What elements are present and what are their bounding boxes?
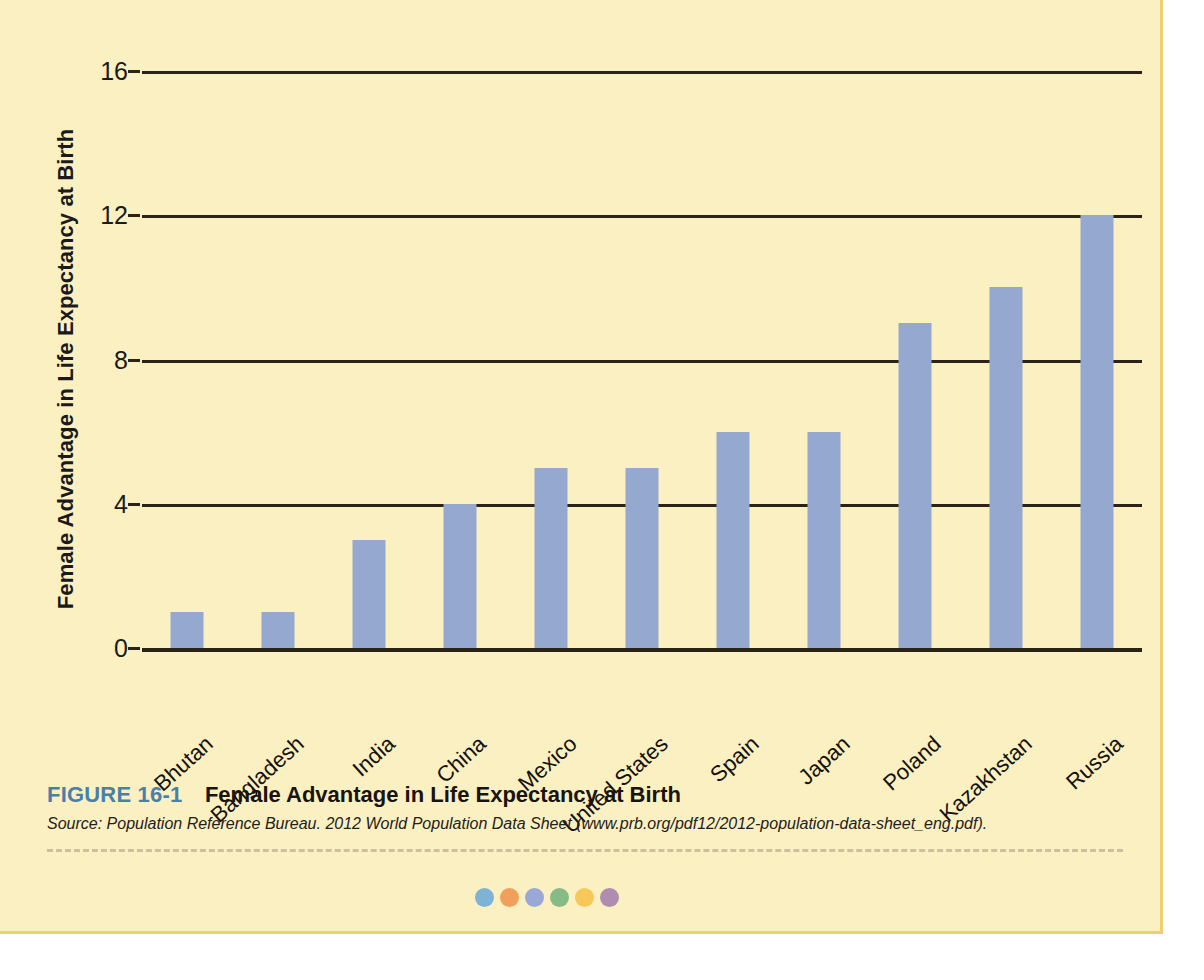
dot-yellow bbox=[575, 888, 594, 907]
gridline-12 bbox=[142, 215, 1142, 218]
y-tick-label-16: 16 bbox=[100, 57, 128, 86]
bar-japan bbox=[807, 432, 840, 648]
plot-area: 0481216BhutanBangladeshIndiaChinaMexicoU… bbox=[142, 71, 1142, 648]
x-tick-label-china: China bbox=[431, 731, 491, 789]
caption-divider bbox=[47, 849, 1123, 852]
bar-india bbox=[353, 540, 386, 648]
gridline-16 bbox=[142, 71, 1142, 74]
figure-source-note: Source: Population Reference Bureau. 201… bbox=[47, 815, 1127, 833]
y-tick-mark-16 bbox=[128, 70, 140, 73]
y-tick-mark-0 bbox=[128, 647, 140, 650]
bar-bangladesh bbox=[262, 612, 295, 648]
bar-russia bbox=[1080, 215, 1113, 648]
figure-caption: FIGURE 16-1 Female Advantage in Life Exp… bbox=[47, 782, 1127, 833]
dot-orange bbox=[500, 888, 519, 907]
y-tick-label-12: 12 bbox=[100, 201, 128, 230]
y-axis-title: Female Advantage in Life Expectancy at B… bbox=[53, 109, 79, 629]
bar-chart-figure: Female Advantage in Life Expectancy at B… bbox=[0, 0, 1163, 775]
figure-number: FIGURE 16-1 bbox=[47, 782, 182, 807]
dot-periwinkle bbox=[525, 888, 544, 907]
bar-kazakhstan bbox=[989, 287, 1022, 648]
bar-spain bbox=[716, 432, 749, 648]
y-tick-label-8: 8 bbox=[114, 345, 128, 374]
y-tick-mark-8 bbox=[128, 359, 140, 362]
caption-title-line: FIGURE 16-1 Female Advantage in Life Exp… bbox=[47, 782, 1127, 808]
bar-china bbox=[444, 504, 477, 648]
y-tick-mark-4 bbox=[128, 503, 140, 506]
textbook-panel: Female Advantage in Life Expectancy at B… bbox=[0, 0, 1163, 934]
x-tick-label-spain: Spain bbox=[705, 731, 764, 788]
dot-green bbox=[550, 888, 569, 907]
decorative-dot-row bbox=[475, 888, 619, 907]
bar-mexico bbox=[535, 468, 568, 648]
y-tick-mark-12 bbox=[128, 214, 140, 217]
figure-title: Female Advantage in Life Expectancy at B… bbox=[205, 782, 681, 807]
x-tick-label-india: India bbox=[348, 731, 401, 782]
y-tick-label-4: 4 bbox=[114, 489, 128, 518]
dot-mauve bbox=[600, 888, 619, 907]
x-axis-line bbox=[142, 648, 1142, 652]
bar-united-states bbox=[626, 468, 659, 648]
bar-bhutan bbox=[171, 612, 204, 648]
figure-page: Female Advantage in Life Expectancy at B… bbox=[0, 0, 1204, 980]
dot-teal bbox=[475, 888, 494, 907]
bar-poland bbox=[898, 323, 931, 648]
y-tick-label-0: 0 bbox=[114, 634, 128, 663]
